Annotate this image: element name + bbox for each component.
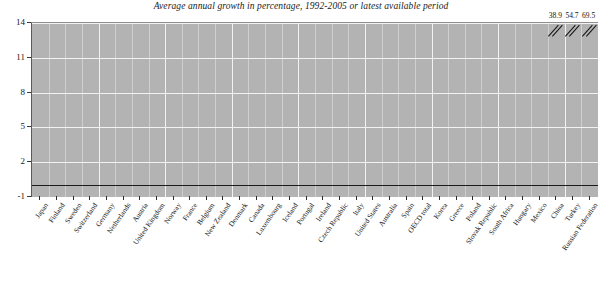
x-tick-mark: [139, 196, 140, 200]
y-tick-label: -1: [18, 191, 26, 201]
y-tick-label: 5: [21, 121, 26, 131]
x-tick-mark: [439, 196, 440, 200]
bars-layer: [32, 23, 598, 197]
y-tick-label: 14: [16, 17, 25, 27]
x-tick-mark: [389, 196, 390, 200]
x-tick-mark: [173, 196, 174, 200]
x-tick-mark: [422, 196, 423, 200]
x-tick-mark: [256, 196, 257, 200]
x-tick-mark: [189, 196, 190, 200]
x-tick-mark: [156, 196, 157, 200]
y-axis: -12581114: [0, 22, 31, 196]
plot-area: [31, 22, 598, 197]
x-tick-mark: [222, 196, 223, 200]
x-tick-mark: [123, 196, 124, 200]
x-tick-mark: [456, 196, 457, 200]
x-tick-mark: [239, 196, 240, 200]
x-axis: JapanFinlandSwedenSwitzerlandGermanyNeth…: [31, 196, 597, 282]
y-tick-label: 2: [21, 156, 26, 166]
x-tick-label: Italy: [351, 201, 366, 217]
chart-container: Average annual growth in percentage, 199…: [0, 0, 602, 282]
x-tick-mark: [106, 196, 107, 200]
x-tick-mark: [89, 196, 90, 200]
bar-value-label: 69.5: [582, 11, 595, 20]
x-tick-mark: [539, 196, 540, 200]
bar-value-label: 54.7: [565, 11, 578, 20]
x-tick-mark: [206, 196, 207, 200]
x-tick-mark: [73, 196, 74, 200]
zero-baseline: [32, 185, 598, 186]
x-tick-mark: [322, 196, 323, 200]
x-tick-label: Greece: [447, 201, 466, 223]
x-tick-mark: [555, 196, 556, 200]
x-tick-mark: [472, 196, 473, 200]
x-tick-mark: [306, 196, 307, 200]
x-tick-mark: [372, 196, 373, 200]
y-tick-label: 11: [16, 52, 25, 62]
chart-title: Average annual growth in percentage, 199…: [0, 1, 602, 11]
x-tick-mark: [39, 196, 40, 200]
y-tick-label: 8: [21, 87, 26, 97]
x-tick-mark: [356, 196, 357, 200]
x-tick-mark: [339, 196, 340, 200]
x-tick-mark: [289, 196, 290, 200]
x-tick-mark: [572, 196, 573, 200]
x-tick-mark: [522, 196, 523, 200]
bar-value-label: 38.9: [549, 11, 562, 20]
x-tick-mark: [489, 196, 490, 200]
x-tick-mark: [56, 196, 57, 200]
x-tick-mark: [272, 196, 273, 200]
x-tick-mark: [505, 196, 506, 200]
x-tick-mark: [406, 196, 407, 200]
x-tick-mark: [589, 196, 590, 200]
